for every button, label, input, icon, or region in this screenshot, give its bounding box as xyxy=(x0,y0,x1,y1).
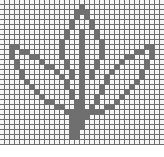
grid-cell xyxy=(160,140,164,145)
pattern-grid xyxy=(0,0,164,145)
